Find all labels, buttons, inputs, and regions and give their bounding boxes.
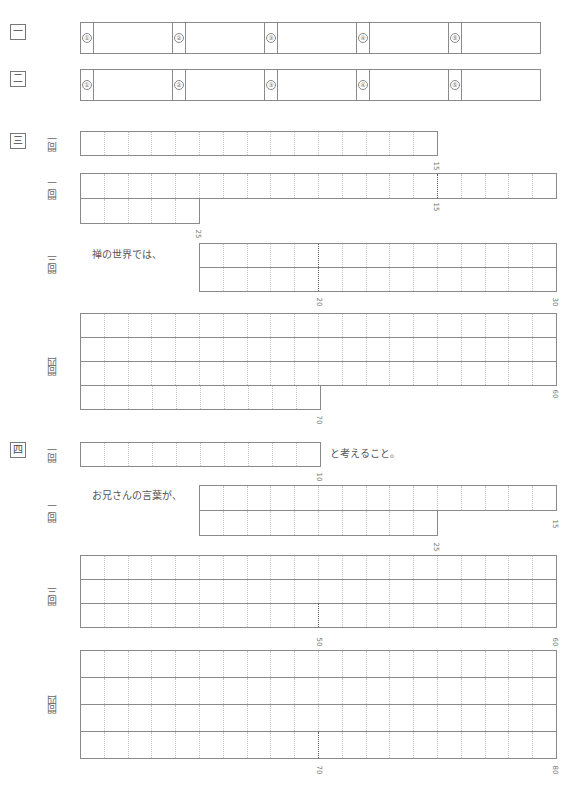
- answer-cell[interactable]: [295, 132, 319, 155]
- answer-grid-row[interactable]: [80, 603, 557, 628]
- answer-cell[interactable]: [152, 732, 176, 758]
- answer-cell[interactable]: [200, 705, 224, 731]
- answer-cell[interactable]: [509, 604, 533, 627]
- answer-cell[interactable]: [224, 314, 248, 337]
- answer-cell[interactable]: [176, 580, 200, 603]
- answer-cell[interactable]: [273, 386, 297, 409]
- answer-cell[interactable]: [200, 651, 224, 677]
- answer-cell[interactable]: [414, 705, 438, 731]
- answer-cell[interactable]: [486, 244, 510, 267]
- answer-cell[interactable]: [152, 678, 176, 704]
- answer-cell[interactable]: [129, 174, 153, 198]
- answer-cell[interactable]: [486, 338, 510, 361]
- answer-cell[interactable]: [343, 338, 367, 361]
- answer-cell[interactable]: [81, 732, 105, 758]
- answer-cell[interactable]: [390, 244, 414, 267]
- answer-cell[interactable]: [200, 678, 224, 704]
- answer-cell[interactable]: [319, 556, 343, 579]
- answer-cell[interactable]: [295, 678, 319, 704]
- answer-cell[interactable]: [438, 705, 462, 731]
- answer-cell[interactable]: [105, 705, 129, 731]
- answer-cell[interactable]: [509, 174, 533, 198]
- answer-cell[interactable]: [129, 132, 153, 155]
- answer-cell[interactable]: [462, 174, 486, 198]
- answer-cell[interactable]: [343, 556, 367, 579]
- answer-cell[interactable]: [200, 511, 224, 535]
- answer-cell[interactable]: [438, 362, 462, 385]
- answer-cell[interactable]: [200, 486, 224, 510]
- answer-cell[interactable]: [129, 580, 153, 603]
- answer-cell[interactable]: [343, 511, 367, 535]
- choice-4[interactable]: ④: [357, 70, 449, 100]
- answer-cell[interactable]: [129, 651, 153, 677]
- answer-cell[interactable]: [343, 362, 367, 385]
- choice-1[interactable]: ①: [81, 70, 173, 100]
- answer-cell[interactable]: [343, 651, 367, 677]
- answer-cell[interactable]: [129, 199, 153, 223]
- answer-cell[interactable]: [343, 604, 367, 627]
- answer-cell[interactable]: [319, 511, 343, 535]
- answer-cell[interactable]: [152, 132, 176, 155]
- answer-cell[interactable]: [390, 486, 414, 510]
- answer-cell[interactable]: [297, 386, 320, 409]
- answer-cell[interactable]: [295, 705, 319, 731]
- answer-cell[interactable]: [319, 244, 343, 267]
- answer-cell[interactable]: [390, 511, 414, 535]
- answer-cell[interactable]: [81, 132, 105, 155]
- answer-cell[interactable]: [367, 556, 391, 579]
- answer-cell[interactable]: [414, 604, 438, 627]
- answer-cell[interactable]: [486, 651, 510, 677]
- answer-grid-row[interactable]: [199, 243, 557, 268]
- answer-cell[interactable]: [533, 362, 556, 385]
- answer-cell[interactable]: [390, 132, 414, 155]
- answer-cell[interactable]: [81, 604, 105, 627]
- answer-cell[interactable]: [224, 678, 248, 704]
- answer-grid-row[interactable]: [199, 267, 557, 292]
- answer-cell[interactable]: [462, 705, 486, 731]
- answer-cell[interactable]: [248, 174, 272, 198]
- answer-cell[interactable]: [129, 314, 153, 337]
- answer-cell[interactable]: [367, 651, 391, 677]
- answer-cell[interactable]: [271, 732, 295, 758]
- answer-cell[interactable]: [224, 268, 248, 291]
- answer-cell[interactable]: [200, 314, 224, 337]
- answer-cell[interactable]: [533, 174, 556, 198]
- answer-cell[interactable]: [319, 174, 343, 198]
- answer-cell[interactable]: [462, 362, 486, 385]
- answer-cell[interactable]: [438, 268, 462, 291]
- answer-cell[interactable]: [462, 338, 486, 361]
- answer-cell[interactable]: [249, 386, 273, 409]
- answer-cell[interactable]: [271, 132, 295, 155]
- answer-cell[interactable]: [224, 486, 248, 510]
- answer-grid-row[interactable]: [80, 198, 200, 224]
- answer-cell[interactable]: [176, 362, 200, 385]
- answer-cell[interactable]: [367, 362, 391, 385]
- answer-cell[interactable]: [129, 705, 153, 731]
- answer-grid-row[interactable]: [80, 337, 557, 362]
- answer-cell[interactable]: [295, 362, 319, 385]
- answer-cell[interactable]: [81, 314, 105, 337]
- answer-cell[interactable]: [486, 486, 510, 510]
- choice-1[interactable]: ①: [81, 23, 173, 53]
- answer-cell[interactable]: [129, 604, 153, 627]
- answer-cell[interactable]: [343, 244, 367, 267]
- answer-cell[interactable]: [200, 556, 224, 579]
- answer-cell[interactable]: [271, 556, 295, 579]
- answer-cell[interactable]: [462, 556, 486, 579]
- answer-cell[interactable]: [509, 362, 533, 385]
- answer-cell[interactable]: [367, 314, 391, 337]
- answer-cell[interactable]: [319, 705, 343, 731]
- answer-cell[interactable]: [414, 651, 438, 677]
- choice-2[interactable]: ②: [173, 23, 265, 53]
- answer-cell[interactable]: [319, 362, 343, 385]
- answer-cell[interactable]: [271, 651, 295, 677]
- answer-cell[interactable]: [533, 244, 556, 267]
- answer-cell[interactable]: [486, 362, 510, 385]
- answer-cell[interactable]: [390, 556, 414, 579]
- answer-cell[interactable]: [414, 314, 438, 337]
- answer-cell[interactable]: [224, 556, 248, 579]
- answer-cell[interactable]: [176, 338, 200, 361]
- answer-cell[interactable]: [224, 132, 248, 155]
- answer-grid-row[interactable]: [80, 131, 438, 156]
- answer-cell[interactable]: [414, 132, 437, 155]
